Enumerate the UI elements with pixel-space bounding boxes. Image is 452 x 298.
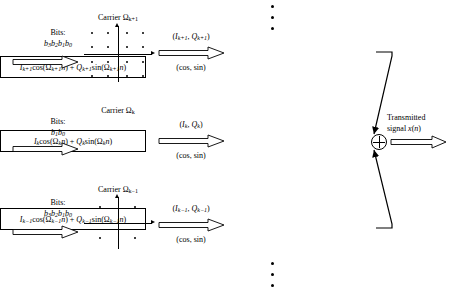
axis-arrow-up-icon-1 [115, 23, 119, 27]
bits-title-3: Bits: [22, 198, 94, 209]
cossin-label-k-minus-1: (cos, sin) [152, 235, 230, 245]
constellation-point [99, 237, 101, 239]
carrier-text-2: Carrier [101, 106, 124, 115]
summing-junction [371, 134, 387, 150]
iq-label-k: (Ik, Qk) [152, 120, 230, 131]
input-arrow-k-plus-1 [12, 55, 80, 69]
ellipsis-top [271, 5, 274, 38]
constellation-point [142, 46, 144, 48]
carrier-sub-3: k−1 [129, 188, 138, 194]
ellipsis-bottom [271, 262, 274, 295]
constellation-point [99, 206, 101, 208]
bits-value-2: b1b0 [22, 128, 94, 140]
bits-label-k: Bits: b1b0 [22, 117, 94, 139]
cossin-label-k-plus-1: (cos, sin) [152, 63, 230, 73]
input-arrow-k-minus-1 [12, 225, 80, 239]
constellation-point [91, 46, 93, 48]
carrier-text-1: Carrier [98, 13, 121, 22]
output-line-2: signal x(n) [387, 124, 452, 135]
iq-label-k-plus-1: (Ik+1, Qk+1) [152, 32, 230, 43]
transfer-arrow-k [158, 134, 226, 148]
constellation-k [84, 197, 152, 249]
input-arrow-k [12, 142, 80, 156]
summing-cross-horizontal [373, 142, 385, 143]
axis-arrow-right-icon-1 [151, 51, 155, 55]
constellation-point [142, 75, 144, 77]
constellation-point [107, 75, 109, 77]
transfer-arrow-k-minus-1 [158, 218, 226, 232]
transfer-arrow-k-plus-1 [158, 46, 226, 60]
constellation-point [134, 206, 136, 208]
diagram-canvas: Bits: b3b2b1b0 Carrier Ωk+1 [0, 0, 452, 298]
constellation-k-plus-1 [84, 26, 152, 82]
constellation-point [134, 237, 136, 239]
bits-value-3: b3b2b1b0 [22, 209, 94, 221]
carrier-sub-2: k [132, 109, 135, 115]
iq-label-k-minus-1: (Ik−1, Qk−1) [152, 204, 230, 215]
bits-title-2: Bits: [22, 117, 94, 128]
constellation-point [142, 32, 144, 34]
carrier-label-k-minus-1: Carrier Ωk−1 [78, 185, 158, 196]
output-arrow [390, 135, 448, 149]
constellation-point [107, 61, 109, 63]
constellation-point [142, 61, 144, 63]
constellation-point [126, 61, 128, 63]
cossin-label-k: (cos, sin) [152, 151, 230, 161]
constellation-axis-horizontal-1 [84, 54, 152, 55]
carrier-text-3: Carrier [98, 185, 121, 194]
constellation-point [126, 75, 128, 77]
constellation-axis-horizontal-2 [84, 223, 152, 224]
bits-label-k-minus-1: Bits: b3b2b1b0 [22, 198, 94, 220]
output-label: Transmitted signal x(n) [387, 113, 452, 134]
constellation-point [107, 32, 109, 34]
constellation-point [126, 46, 128, 48]
constellation-point [107, 46, 109, 48]
connector-line-bottom [374, 150, 392, 228]
constellation-point [91, 32, 93, 34]
constellation-point [91, 75, 93, 77]
constellation-point [126, 32, 128, 34]
constellation-point [91, 61, 93, 63]
axis-arrow-right-icon-2 [151, 220, 155, 224]
output-signal-word: signal [387, 124, 408, 133]
carrier-label-k: Carrier Ωk [78, 106, 158, 117]
output-line-1: Transmitted [387, 113, 452, 124]
carrier-sub-1: k+1 [129, 16, 138, 22]
